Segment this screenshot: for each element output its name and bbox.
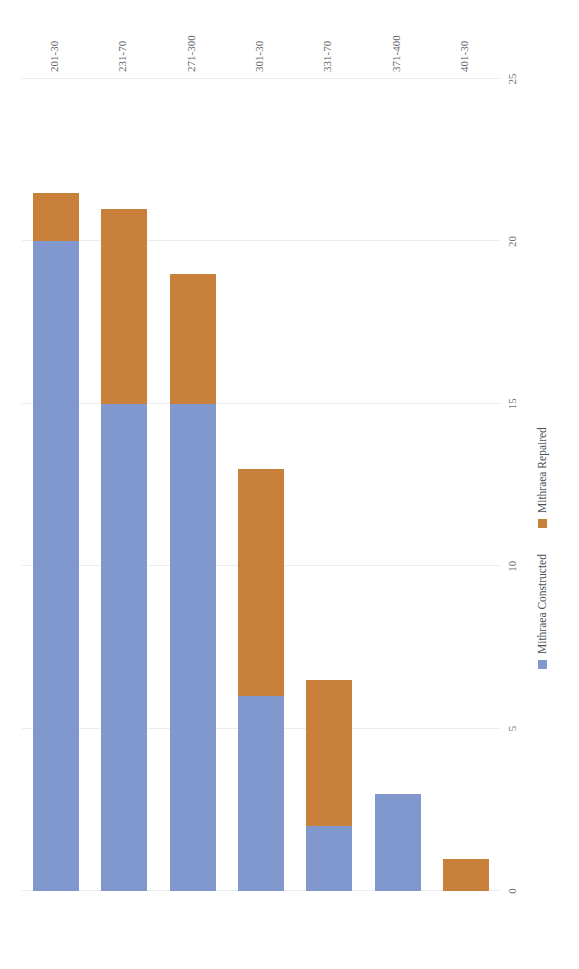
category-axis-labels: 201-30231-70271-300301-30331-70371-40040… [22,10,500,76]
legend-entry-constructed: Mithraea Constructed [536,554,548,669]
bar-segment-repaired[interactable] [443,859,489,891]
category-axis-label: 271-300 [185,35,197,72]
bar-segment-constructed[interactable] [306,826,352,891]
value-axis-tick-label: 10 [506,561,518,572]
bar-row[interactable] [238,469,284,891]
bar-segment-constructed[interactable] [101,404,147,891]
bar-segment-repaired[interactable] [33,193,79,242]
value-axis-tick-label: 15 [506,398,518,409]
bar-row[interactable] [101,209,147,891]
legend-label-constructed: Mithraea Constructed [536,554,548,654]
chart-legend: Mithraea Constructed Mithraea Repaired [536,427,548,669]
bar-row[interactable] [33,193,79,891]
value-axis-tick-label: 5 [506,726,518,732]
category-axis-label: 331-70 [321,41,333,72]
legend-entry-repaired: Mithraea Repaired [536,427,548,528]
chart-screenshot: 0510152025 201-30231-70271-300301-30331-… [0,0,579,969]
value-axis-tick-label: 25 [506,74,518,85]
category-axis-label: 401-30 [458,41,470,72]
bar-segment-constructed[interactable] [238,696,284,891]
bar-segment-repaired[interactable] [170,274,216,404]
legend-label-repaired: Mithraea Repaired [536,427,548,513]
bar-row[interactable] [170,274,216,891]
bar-row[interactable] [443,859,489,891]
value-axis-tick-label: 0 [506,888,518,894]
plot-wrapper: 0510152025 201-30231-70271-300301-30331-… [0,0,579,969]
plot-area [22,79,500,891]
bar-row[interactable] [306,680,352,891]
bar-series-group [22,79,500,891]
bar-segment-repaired[interactable] [238,469,284,696]
category-axis-label: 371-400 [390,35,402,72]
bar-segment-repaired[interactable] [101,209,147,404]
category-axis-label: 201-30 [48,41,60,72]
bar-segment-constructed[interactable] [170,404,216,891]
legend-swatch-repaired-icon [538,519,547,528]
bar-segment-constructed[interactable] [33,241,79,891]
category-axis-label: 301-30 [253,41,265,72]
legend-swatch-constructed-icon [538,660,547,669]
bar-row[interactable] [375,794,421,891]
category-axis-label: 231-70 [116,41,128,72]
bar-segment-constructed[interactable] [375,794,421,891]
bar-segment-repaired[interactable] [306,680,352,826]
chart-figure: 0510152025 201-30231-70271-300301-30331-… [0,0,579,969]
value-axis-tick-label: 20 [506,236,518,247]
